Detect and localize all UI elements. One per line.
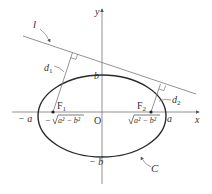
label-x-axis: x xyxy=(194,114,200,125)
leader-c xyxy=(141,157,151,167)
label-f1: F1 xyxy=(57,100,67,113)
label-neg-b: − b xyxy=(89,156,103,167)
label-f2: F2 xyxy=(137,100,147,113)
focus-f1-point xyxy=(51,110,54,113)
label-a: a xyxy=(167,113,172,124)
svg-text:a² − b²: a² − b² xyxy=(134,116,157,125)
label-c: a² − b² xyxy=(129,115,160,125)
label-curve-c: C xyxy=(151,162,159,174)
svg-text:−: − xyxy=(45,115,50,125)
label-d1: d1 xyxy=(44,62,53,75)
label-b: b xyxy=(94,70,99,81)
leader-l xyxy=(40,29,50,42)
label-l: l xyxy=(33,18,36,30)
label-neg-a: − a xyxy=(18,113,32,124)
label-neg-c: − a² − b² xyxy=(45,115,84,125)
label-d2: d2 xyxy=(172,94,181,107)
ellipse-diagram: l d1 d2 y x b − b O F1 F2 − a a − a² − b… xyxy=(0,0,212,194)
leader-d1 xyxy=(54,66,64,72)
label-origin: O xyxy=(94,115,101,126)
label-y-axis: y xyxy=(94,6,100,17)
focus-f2-point xyxy=(149,110,152,113)
svg-text:a² − b²: a² − b² xyxy=(58,116,81,125)
perpendicular-d1 xyxy=(53,53,73,113)
